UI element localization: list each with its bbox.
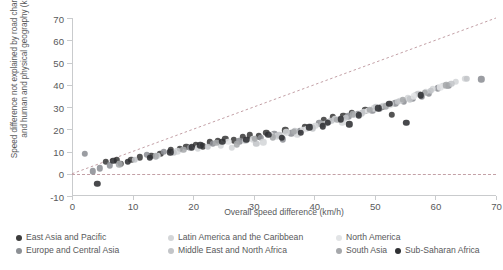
data-point	[427, 87, 433, 93]
data-point	[94, 181, 100, 187]
y-axis-tick-label: 20	[53, 124, 64, 135]
data-point	[410, 93, 416, 99]
y-axis-tick-label: 40	[53, 80, 64, 91]
data-point	[125, 159, 131, 165]
x-axis-line	[72, 195, 496, 196]
legend-item-label: East Asia and Pacific	[26, 233, 106, 242]
legend-swatch-icon	[395, 248, 401, 254]
data-point	[82, 151, 88, 157]
legend: East Asia and PacificLatin America and t…	[16, 231, 494, 257]
legend-item-label: Latin America and the Caribbean	[178, 233, 303, 242]
y-axis-tick-label: 60	[53, 35, 64, 46]
identity-reference-line	[72, 18, 496, 196]
data-point	[298, 130, 304, 136]
legend-swatch-icon	[336, 235, 342, 241]
legend-item[interactable]: East Asia and Pacific	[16, 233, 168, 242]
legend-item-label: North America	[346, 233, 400, 242]
x-axis-tick: 60	[435, 196, 436, 200]
data-point	[253, 141, 259, 147]
x-axis-tick: 50	[375, 196, 376, 200]
x-axis-tick: 0	[72, 196, 73, 200]
y-axis-tick: 20	[67, 129, 72, 130]
plot-area: -10010203040506070 010203040506070	[72, 18, 496, 196]
y-axis-line	[72, 18, 73, 196]
legend-item[interactable]: South Asia	[336, 246, 387, 255]
zero-reference-line	[72, 174, 496, 175]
y-axis-tick: 0	[67, 174, 72, 175]
y-axis-tick-label: -10	[50, 191, 64, 202]
data-point	[204, 143, 210, 149]
legend-swatch-icon	[168, 248, 174, 254]
data-point	[234, 141, 240, 147]
data-point	[356, 112, 362, 118]
y-axis-tick: 30	[67, 107, 72, 108]
legend-item[interactable]: North America	[336, 233, 494, 242]
legend-swatch-icon	[336, 248, 342, 254]
x-axis-title: Overall speed difference (km/h)	[72, 207, 496, 217]
x-axis-tick: 30	[254, 196, 255, 200]
legend-group-row2-col3: South AsiaSub-Saharan Africa	[336, 246, 494, 255]
y-axis-tick-label: 70	[53, 13, 64, 24]
data-point	[189, 144, 195, 150]
y-axis-tick-label: 30	[53, 102, 64, 113]
y-axis-tick-label: 0	[59, 169, 64, 180]
data-point	[116, 161, 122, 167]
data-point	[346, 121, 352, 127]
legend-item-label: Sub-Saharan Africa	[405, 246, 480, 255]
y-axis-tick-label: 10	[53, 147, 64, 158]
legend-item-label: Europe and Central Asia	[26, 246, 119, 255]
legend-item[interactable]: Europe and Central Asia	[16, 246, 168, 255]
data-point	[152, 153, 158, 159]
legend-item-label: Middle East and North Africa	[178, 246, 287, 255]
data-point	[243, 137, 249, 143]
legend-item[interactable]: Middle East and North Africa	[168, 246, 336, 255]
legend-swatch-icon	[16, 248, 22, 254]
y-axis-tick-label: 50	[53, 58, 64, 69]
data-point	[403, 120, 409, 126]
legend-swatch-icon	[168, 235, 174, 241]
legend-item-label: South Asia	[346, 246, 387, 255]
y-axis-tick: 70	[67, 18, 72, 19]
data-point	[324, 120, 330, 126]
y-axis-tick: 40	[67, 85, 72, 86]
legend-swatch-icon	[16, 235, 22, 241]
data-point	[260, 139, 266, 145]
data-point	[219, 139, 225, 145]
x-axis-tick: 70	[496, 196, 497, 200]
data-point	[464, 75, 470, 81]
data-point	[132, 156, 138, 162]
data-point	[478, 76, 484, 82]
x-axis-tick: 20	[193, 196, 194, 200]
scatter-chart: Speed difference not explained by road c…	[0, 0, 503, 270]
y-axis-tick: 10	[67, 152, 72, 153]
x-axis-tick: 40	[314, 196, 315, 200]
data-point	[180, 147, 186, 153]
data-point	[389, 112, 395, 118]
y-axis-tick: 50	[67, 63, 72, 64]
data-point	[146, 155, 152, 161]
x-axis-tick: 10	[133, 196, 134, 200]
legend-item[interactable]: Latin America and the Caribbean	[168, 233, 336, 242]
y-axis-tick: 60	[67, 40, 72, 41]
y-axis-title: Speed difference not explained by road c…	[0, 0, 43, 159]
data-point	[97, 165, 103, 171]
legend-item[interactable]: Sub-Saharan Africa	[395, 246, 480, 255]
